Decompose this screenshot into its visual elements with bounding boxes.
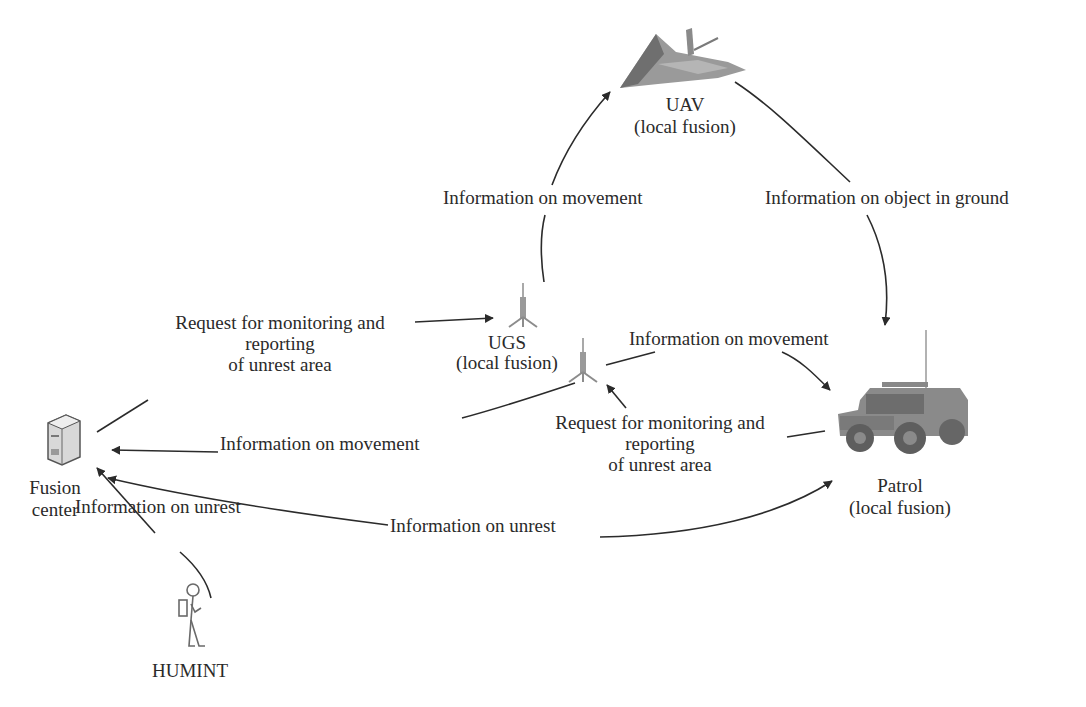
edge-label-patrol-to-ugs: Request for monitoring and reporting of … [530, 412, 790, 475]
edge-label-patrol-to-ugs-line3: of unrest area [530, 454, 790, 475]
edge-ugs-to-uav-lower [541, 215, 545, 282]
edge-label-ugs-to-fusion: Information on movement [220, 433, 419, 454]
edge-ugs-to-patrol-right [782, 352, 830, 390]
humint-node-label: HUMINT [140, 660, 240, 682]
edge-patrol-to-ugs-left [607, 385, 626, 408]
edge-fusion-patrol-right [600, 481, 832, 537]
military-vehicle-icon [830, 330, 972, 460]
stealth-aircraft-icon [618, 24, 750, 92]
ground-sensor-icon-2 [566, 338, 600, 384]
edge-label-fusion-to-ugs-line1: Request for monitoring and [150, 312, 410, 333]
edge-uav-to-patrol-upper [735, 82, 850, 182]
edge-label-humint-to-fusion: Information on unrest [75, 496, 241, 517]
edge-label-fusion-to-ugs-line3: of unrest area [150, 354, 410, 375]
ugs-name: UGS [447, 333, 567, 353]
edge-label-patrol-to-ugs-line2: reporting [530, 433, 790, 454]
patrol-sub: (local fusion) [840, 497, 960, 519]
patrol-node-label: Patrol (local fusion) [840, 475, 960, 519]
edge-ugs-to-fusion-left [112, 450, 218, 452]
uav-node-label: UAV (local fusion) [625, 94, 745, 138]
edge-label-patrol-to-ugs-line1: Request for monitoring and [530, 412, 790, 433]
edge-fusion-to-ugs-upper [415, 318, 493, 322]
uav-name: UAV [625, 94, 745, 116]
edge-uav-to-patrol-lower [867, 215, 887, 325]
person-with-backpack-icon [175, 580, 215, 652]
edge-patrol-to-ugs-right [787, 431, 825, 437]
edge-label-fusion-to-ugs-line2: reporting [150, 333, 410, 354]
edge-label-ugs-to-uav: Information on movement [443, 187, 642, 208]
edge-label-uav-to-patrol: Information on object in ground [765, 187, 1009, 208]
ugs-node-label: UGS (local fusion) [447, 333, 567, 373]
edge-ugs-to-uav-upper [552, 92, 610, 185]
edge-fusion-to-ugs-lower [97, 400, 148, 432]
edge-label-fusion-to-ugs: Request for monitoring and reporting of … [150, 312, 410, 375]
uav-sub: (local fusion) [625, 116, 745, 138]
information-flow-diagram: UAV (local fusion) UGS (local fusion) Pa… [0, 0, 1086, 707]
patrol-name: Patrol [840, 475, 960, 497]
edge-label-fusion-patrol: Information on unrest [390, 515, 556, 536]
edge-ugs-to-patrol-left [606, 352, 655, 365]
ugs-sub: (local fusion) [447, 353, 567, 373]
edge-label-ugs-to-patrol: Information on movement [629, 328, 828, 349]
humint-name: HUMINT [140, 660, 240, 682]
server-icon [44, 413, 84, 467]
ground-sensor-icon [506, 283, 540, 329]
